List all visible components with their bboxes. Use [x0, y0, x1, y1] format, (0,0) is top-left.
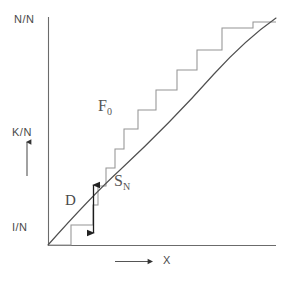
theoretical-cdf-label: F0	[98, 97, 112, 115]
empirical-cdf-label: SN	[114, 172, 130, 190]
theoretical-cdf-curve	[48, 18, 276, 245]
empirical-cdf-label-text: S	[114, 172, 123, 189]
y-axis-top-tick-label: N/N	[14, 13, 34, 25]
max-deviation-label: D	[65, 192, 76, 209]
theoretical-cdf-label-subscript: 0	[107, 106, 112, 117]
y-axis-mid-tick-label: K/N	[12, 126, 32, 138]
x-axis-label: X	[163, 254, 171, 266]
empirical-cdf-step-curve	[48, 22, 276, 245]
ks-deviation-figure: N/N K/N I/N X F0 SN D	[0, 0, 286, 284]
theoretical-cdf-label-text: F	[98, 97, 107, 114]
y-axis-low-tick-label: I/N	[12, 221, 28, 233]
plot-canvas	[0, 0, 286, 284]
empirical-cdf-label-subscript: N	[123, 181, 130, 192]
